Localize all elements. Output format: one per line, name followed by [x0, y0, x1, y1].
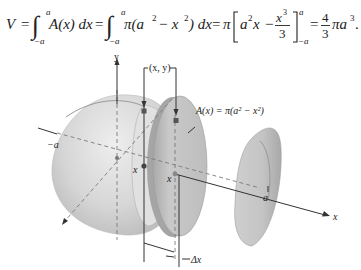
z-axis-arrow-icon [62, 218, 68, 225]
figure-svg: y (x, y) A(x) = π(a² − x²) −a x x a x Δx [0, 48, 361, 270]
bracket-minus: − [265, 16, 273, 32]
eval-upper: a [299, 7, 304, 17]
delta-x-label: Δx [190, 254, 202, 265]
int2-sq1: 2 [152, 13, 157, 23]
int2-lower: −a [109, 36, 120, 46]
formula-eq1: = [21, 16, 29, 32]
x-mark-label-2: x [166, 173, 172, 184]
result-num: 4 [322, 10, 329, 25]
int2-body-minus: − x [158, 16, 179, 32]
x-axis-label: x [332, 211, 338, 222]
int1-body: A(x) dx [48, 16, 93, 33]
point-left-top [142, 109, 147, 114]
int2-sq2: 2 [184, 13, 189, 23]
x-axis-arrow-icon [322, 211, 330, 217]
result-den: 3 [322, 26, 329, 41]
formula-pi: π [223, 16, 231, 32]
formula-lhs: V [6, 16, 17, 32]
bracket-a: a [240, 16, 248, 32]
frac-num-sup: 3 [283, 8, 287, 17]
area-formula-label: A(x) = π(a² − x²) [195, 105, 264, 117]
point-xy-label: (x, y) [149, 62, 171, 74]
right-bracket [293, 12, 297, 42]
result-tail: πa [332, 16, 347, 32]
formula-eq4: = [310, 16, 318, 32]
left-bracket [234, 12, 238, 42]
sphere-slicing-figure: y (x, y) A(x) = π(a² − x²) −a x x a x Δx [0, 48, 361, 270]
int2-body-end: ) dx [188, 16, 212, 33]
result-period: . [355, 16, 359, 32]
point-right-top [174, 118, 179, 123]
formula-svg: V = ∫ a −a A(x) dx = ∫ a −a π(a 2 − x 2 … [0, 0, 361, 48]
bracket-a-sup: 2 [248, 13, 253, 23]
pos-a-label: a [263, 192, 268, 203]
frac-num: x [275, 10, 282, 25]
frac-den: 3 [279, 26, 286, 41]
bracket-x: x [252, 16, 260, 32]
point-x-right [173, 172, 178, 177]
neg-a-label: −a [47, 139, 59, 150]
origin-point [115, 156, 119, 160]
x-mark-label-1: x [132, 164, 138, 175]
point-x-left [141, 163, 146, 168]
int2-body-pi: π(a [124, 16, 144, 33]
y-axis-label: y [114, 51, 119, 62]
sphere-right-cap [235, 128, 282, 246]
int1-lower: −a [34, 36, 45, 46]
formula-eq2: = [95, 16, 103, 32]
volume-formula: V = ∫ a −a A(x) dx = ∫ a −a π(a 2 − x 2 … [0, 0, 361, 48]
eval-lower: −a [298, 36, 309, 46]
formula-eq3: = [212, 16, 220, 32]
